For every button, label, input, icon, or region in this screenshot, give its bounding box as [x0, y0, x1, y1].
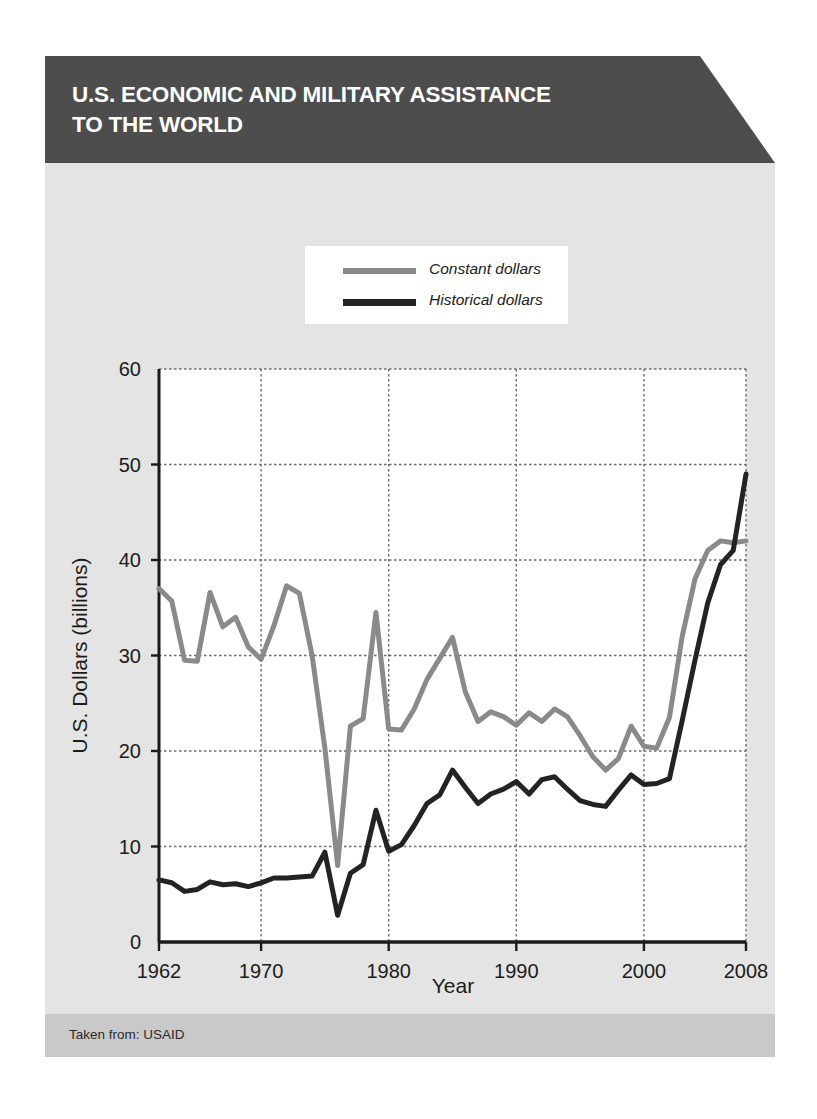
x-axis-label: Year [432, 974, 474, 997]
xtick-label-1970: 1970 [239, 960, 284, 982]
xtick-label-1980: 1980 [366, 960, 411, 982]
ytick-label-20: 20 [119, 740, 141, 762]
ytick-label-60: 60 [119, 358, 141, 380]
y-axis-label: U.S. Dollars (billions) [68, 557, 91, 753]
legend-swatch-historical-dollars [343, 299, 416, 306]
chart-legend: Constant dollars Historical dollars [305, 246, 568, 324]
ytick-label-10: 10 [119, 836, 141, 858]
ytick-label-0: 0 [130, 931, 141, 953]
header-banner: U.S. ECONOMIC AND MILITARY ASSISTANCE TO… [45, 56, 775, 163]
xtick-label-1962: 1962 [137, 960, 182, 982]
xtick-label-2000: 2000 [622, 960, 667, 982]
ytick-label-40: 40 [119, 549, 141, 571]
legend-entry-historical-dollars: Historical dollars [305, 288, 568, 318]
xtick-label-1990: 1990 [494, 960, 539, 982]
plot-background [159, 369, 746, 942]
legend-label-historical-dollars: Historical dollars [429, 291, 543, 309]
ytick-label-30: 30 [119, 645, 141, 667]
chart-plot-area: 0102030405060 196219701980199020002008 U… [45, 163, 775, 1014]
legend-label-constant-dollars: Constant dollars [429, 260, 541, 278]
legend-entry-constant-dollars: Constant dollars [305, 257, 568, 287]
page-title: U.S. ECONOMIC AND MILITARY ASSISTANCE TO… [72, 80, 672, 139]
source-attribution: Taken from: USAID [69, 1027, 185, 1042]
legend-swatch-constant-dollars [343, 268, 416, 274]
xtick-label-2008: 2008 [724, 960, 769, 982]
infographic-figure: U.S. ECONOMIC AND MILITARY ASSISTANCE TO… [45, 56, 775, 1074]
y-axis-tick-labels: 0102030405060 [119, 358, 141, 953]
footer-strip: Taken from: USAID [45, 1014, 775, 1057]
ytick-label-50: 50 [119, 454, 141, 476]
